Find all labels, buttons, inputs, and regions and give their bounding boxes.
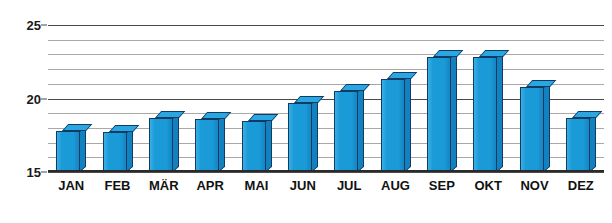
bar-front-face <box>195 119 219 172</box>
x-axis-label-okt: OKT <box>465 178 511 193</box>
bar-side-face <box>173 112 179 172</box>
x-axis-label-feb: FEB <box>94 178 140 193</box>
bar-front-face <box>288 103 312 172</box>
y-axis-tick-label: 15 <box>27 165 41 180</box>
bar-side-face <box>358 86 364 172</box>
bar-top-face <box>109 125 139 132</box>
bar-front-face <box>566 118 590 172</box>
bar-front-face <box>242 121 266 172</box>
x-axis-label-jan: JAN <box>48 178 94 193</box>
bar-side-face <box>451 52 457 172</box>
bar-chart: 252015 JANFEBMÄRAPRMAIJUNJULAUGSEPOKTNOV… <box>0 0 612 223</box>
bar-top-face <box>572 111 602 118</box>
y-axis-tick-label: 25 <box>27 18 41 33</box>
bar-side-face <box>312 98 318 172</box>
x-axis-label-mär: MÄR <box>141 178 187 193</box>
y-axis-tick-mark <box>41 25 47 26</box>
bar-front-face <box>56 131 80 172</box>
bar-aug[interactable] <box>381 79 405 172</box>
bar-side-face <box>80 125 86 172</box>
bar-top-face <box>62 124 92 131</box>
bar-top-face <box>387 72 417 79</box>
bar-mai[interactable] <box>242 121 266 172</box>
y-axis-tick-mark <box>41 98 47 99</box>
bar-series <box>48 25 604 172</box>
bar-side-face <box>219 114 225 172</box>
bar-top-face <box>294 96 324 103</box>
bar-jan[interactable] <box>56 131 80 172</box>
y-axis-tick-label: 20 <box>27 91 41 106</box>
x-axis-label-nov: NOV <box>511 178 557 193</box>
bar-front-face <box>427 57 451 172</box>
bar-top-face <box>248 114 278 121</box>
bar-side-face <box>266 115 272 172</box>
x-axis-label-dez: DEZ <box>558 178 604 193</box>
bar-side-face <box>497 52 503 172</box>
gridline-major <box>48 172 604 173</box>
bar-dez[interactable] <box>566 118 590 172</box>
bar-front-face <box>473 57 497 172</box>
bar-front-face <box>334 91 358 172</box>
bar-top-face <box>340 84 370 91</box>
bar-side-face <box>544 81 550 172</box>
bar-front-face <box>520 87 544 172</box>
bar-top-face <box>201 112 231 119</box>
bar-front-face <box>149 118 173 172</box>
x-axis-label-jul: JUL <box>326 178 372 193</box>
bar-sep[interactable] <box>427 57 451 172</box>
bar-top-face <box>526 80 556 87</box>
bar-feb[interactable] <box>103 132 127 172</box>
y-axis-tick-mark <box>41 172 47 173</box>
bar-side-face <box>405 74 411 172</box>
bar-top-face <box>433 50 463 57</box>
x-axis-label-aug: AUG <box>372 178 418 193</box>
bar-side-face <box>590 112 596 172</box>
bar-jul[interactable] <box>334 91 358 172</box>
bar-mär[interactable] <box>149 118 173 172</box>
bar-front-face <box>381 79 405 172</box>
bar-nov[interactable] <box>520 87 544 172</box>
bar-front-face <box>103 132 127 172</box>
x-axis-label-sep: SEP <box>419 178 465 193</box>
bar-side-face <box>127 127 133 172</box>
x-axis-label-mai: MAI <box>233 178 279 193</box>
bar-apr[interactable] <box>195 119 219 172</box>
x-axis-label-jun: JUN <box>280 178 326 193</box>
bar-top-face <box>479 50 509 57</box>
bar-top-face <box>155 111 185 118</box>
bar-okt[interactable] <box>473 57 497 172</box>
plot-area: 252015 <box>48 25 604 172</box>
x-axis-line <box>48 170 604 172</box>
x-axis-label-apr: APR <box>187 178 233 193</box>
bar-jun[interactable] <box>288 103 312 172</box>
